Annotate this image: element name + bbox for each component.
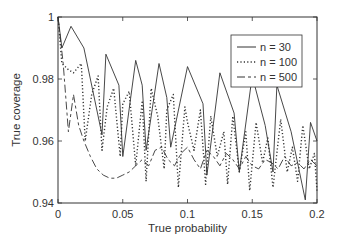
x-tick-labels: 00.050.10.150.2 xyxy=(55,208,325,220)
y-tick-label: 0.96 xyxy=(33,135,54,147)
x-tick-label: 0.05 xyxy=(112,208,133,220)
x-tick-label: 0.2 xyxy=(309,208,324,220)
y-axis-label: True coverage xyxy=(10,73,22,147)
y-tick-label: 0.98 xyxy=(33,73,54,85)
legend-label-n100: n = 100 xyxy=(260,56,297,68)
legend-label-n500: n = 500 xyxy=(260,71,297,83)
x-tick-label: 0 xyxy=(55,208,61,220)
y-tick-label: 1 xyxy=(48,11,54,23)
legend: n = 30 n = 100 n = 500 xyxy=(231,35,302,87)
y-tick-label: 0.94 xyxy=(33,197,54,209)
legend-label-n30: n = 30 xyxy=(260,41,291,53)
x-axis-label: True probability xyxy=(148,222,227,234)
chart: 00.050.10.150.2 0.940.960.981 True proba… xyxy=(0,0,338,246)
x-tick-label: 0.15 xyxy=(242,208,263,220)
x-tick-label: 0.1 xyxy=(180,208,195,220)
y-tick-labels: 0.940.960.981 xyxy=(33,11,54,209)
